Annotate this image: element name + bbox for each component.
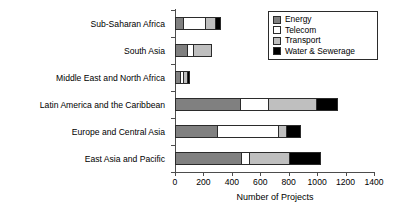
bar-segment — [205, 18, 215, 29]
bar-segment — [176, 99, 240, 110]
bar-stack — [175, 152, 321, 165]
legend-label: Energy — [285, 15, 312, 25]
bar-stack — [175, 71, 190, 84]
x-axis-tick — [317, 172, 318, 176]
x-axis-tick-label: 400 — [225, 177, 239, 187]
legend-swatch-icon — [273, 26, 281, 34]
legend-label: Water & Sewerage — [285, 47, 355, 57]
x-axis-tick-label: 200 — [196, 177, 210, 187]
legend-swatch-icon — [273, 37, 281, 45]
category-label: East Asia and Pacific — [0, 145, 170, 172]
bar-segment — [187, 72, 189, 83]
stacked-bar-chart: Sub-Saharan AfricaSouth AsiaMiddle East … — [0, 0, 400, 220]
bar-stack — [175, 17, 221, 30]
x-axis-tick — [289, 172, 290, 176]
legend-swatch-icon — [273, 16, 281, 24]
bar-segment — [268, 99, 316, 110]
bar-segment — [289, 153, 321, 164]
bar-segment — [286, 126, 300, 137]
x-axis-tick-label: 800 — [282, 177, 296, 187]
legend-label: Transport — [285, 36, 321, 46]
x-axis-tick — [260, 172, 261, 176]
x-axis-tick-label: 1400 — [364, 177, 383, 187]
bar-segment — [316, 99, 338, 110]
x-axis-tick-label: 1000 — [308, 177, 327, 187]
legend-item: Water & Sewerage — [273, 47, 373, 57]
bar-stack — [175, 125, 301, 138]
bar-segment — [176, 153, 241, 164]
legend-item: Transport — [273, 36, 373, 46]
legend-item: Telecom — [273, 26, 373, 36]
x-axis-tick — [374, 172, 375, 176]
x-axis-tick — [232, 172, 233, 176]
legend-label: Telecom — [285, 26, 316, 36]
x-axis-title: Number of Projects — [175, 192, 375, 202]
x-axis-tick-label: 0 — [173, 177, 178, 187]
bar-segment — [217, 126, 278, 137]
category-label: Sub-Saharan Africa — [0, 10, 170, 37]
bar-segment — [241, 153, 249, 164]
bar-segment — [240, 99, 268, 110]
category-label: South Asia — [0, 37, 170, 64]
x-axis-tick — [203, 172, 204, 176]
bar-segment — [176, 18, 183, 29]
category-label: Middle East and North Africa — [0, 64, 170, 91]
y-axis-category-labels: Sub-Saharan AfricaSouth AsiaMiddle East … — [0, 10, 170, 172]
legend-item: Energy — [273, 15, 373, 25]
x-axis-tick — [346, 172, 347, 176]
bar-segment — [193, 45, 211, 56]
bar-segment — [249, 153, 288, 164]
bar-stack — [175, 44, 212, 57]
x-axis-tick — [175, 172, 176, 176]
x-axis-tick-label: 1200 — [336, 177, 355, 187]
bar-segment — [215, 18, 220, 29]
category-label: Europe and Central Asia — [0, 118, 170, 145]
legend-swatch-icon — [273, 47, 281, 55]
bar-segment — [176, 126, 217, 137]
bar-segment — [183, 18, 205, 29]
x-axis-tick-label: 600 — [253, 177, 267, 187]
bar-segment — [176, 45, 187, 56]
category-label: Latin America and the Caribbean — [0, 91, 170, 118]
chart-legend: EnergyTelecomTransportWater & Sewerage — [268, 11, 378, 60]
bar-stack — [175, 98, 338, 111]
bar-segment — [278, 126, 286, 137]
